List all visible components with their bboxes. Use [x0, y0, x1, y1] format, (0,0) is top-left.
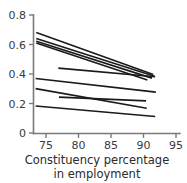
- x-tick-label-75: 75: [39, 139, 53, 152]
- series-group: [36, 33, 156, 117]
- x-tick-label-95: 95: [169, 139, 183, 152]
- y-tick-label-0.6: 0.6: [9, 39, 27, 52]
- y-tick-label-0.4: 0.4: [9, 68, 27, 81]
- line-chart-plot: 0.8 0.6 0.4 0.2 0 75 80 85 90 95 Constit…: [0, 0, 187, 183]
- series-line-6: [36, 78, 156, 92]
- series-line-1: [36, 33, 153, 75]
- x-tick-label-80: 80: [72, 139, 86, 152]
- x-axis-title-line2: in employment: [54, 167, 141, 181]
- chart-figure: 0.8 0.6 0.4 0.2 0 75 80 85 90 95 Constit…: [0, 0, 187, 183]
- series-line-9: [36, 106, 156, 116]
- x-tick-label-85: 85: [104, 139, 118, 152]
- y-tick-label-0.8: 0.8: [9, 9, 27, 22]
- series-line-3: [36, 41, 152, 78]
- x-tick-label-90: 90: [137, 139, 151, 152]
- x-axis-title-line1: Constituency percentage: [25, 153, 169, 167]
- y-tick-label-0: 0: [19, 127, 26, 140]
- series-line-2: [36, 38, 154, 76]
- y-tick-label-0.2: 0.2: [9, 98, 27, 111]
